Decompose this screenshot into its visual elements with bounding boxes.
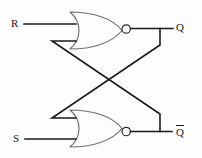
nor-gate-bottom (70, 110, 130, 147)
input-label-r: R (11, 18, 18, 29)
nor-gate-bottom-body (70, 110, 122, 147)
feedback-wires (52, 29, 160, 132)
output-label-qbar: Q (176, 125, 184, 138)
circuit-schematic (0, 0, 202, 158)
logic-diagram: R S Q Q (0, 0, 202, 158)
nor-gate-top (70, 12, 130, 49)
output-label-qbar-text: Q (176, 125, 184, 138)
nor-gate-top-body (70, 12, 122, 49)
input-label-s: S (13, 133, 19, 144)
nor-gate-bottom-bubble-icon (122, 127, 130, 135)
nor-gate-top-bubble-icon (122, 25, 130, 33)
output-wires (131, 29, 174, 132)
output-label-q: Q (176, 22, 184, 33)
